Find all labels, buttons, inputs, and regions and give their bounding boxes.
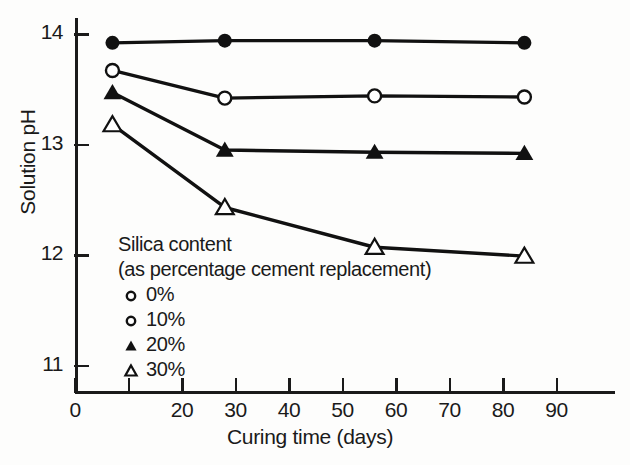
data-point [218,92,231,105]
data-point [218,34,232,48]
legend-marker-icon [118,361,144,379]
data-point [104,116,122,131]
legend-entry: 10% [118,307,431,332]
data-point [105,36,119,50]
legend-marker-icon [118,311,144,329]
series-line [112,70,524,98]
legend: Silica content (as percentage cement rep… [118,232,431,382]
data-point [104,84,122,99]
legend-entry: 20% [118,332,431,357]
legend-entry-label: 10% [144,307,185,332]
data-point [518,90,531,103]
legend-marker-icon [118,336,144,354]
legend-entry-label: 30% [144,357,185,382]
data-point [368,89,381,102]
legend-entry-label: 0% [144,282,174,307]
legend-entry-list: 0%10%20%30% [118,282,431,382]
legend-entry: 30% [118,357,431,382]
data-point [106,64,119,77]
legend-marker-icon [118,286,144,304]
series-line [112,93,524,154]
series-0pct [105,34,531,50]
legend-entry-label: 20% [144,332,185,357]
series-10pct [106,64,531,105]
legend-entry: 0% [118,282,431,307]
legend-title-line-2: (as percentage cement replacement) [118,257,431,282]
chart-figure: Solution pH Curing time (days) 11121314 … [0,0,630,465]
data-point [368,34,382,48]
series-line [112,41,524,43]
series-layer [104,34,534,263]
data-point [517,36,531,50]
legend-title-line-1: Silica content [118,232,431,257]
